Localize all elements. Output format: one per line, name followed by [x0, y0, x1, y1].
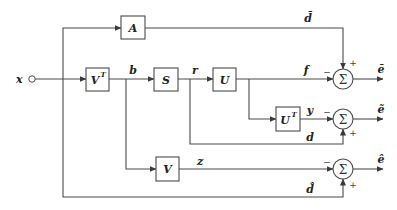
- signal-r: r: [192, 64, 199, 77]
- output-e-bar: ē: [378, 63, 385, 76]
- block-a: A: [121, 16, 145, 39]
- summer-3: Σ − +: [323, 157, 357, 190]
- signal-d-bar: d̄: [304, 11, 313, 25]
- block-v: V: [156, 157, 179, 181]
- block-u-label: U: [220, 74, 231, 87]
- wire-b-to-v: [126, 79, 156, 169]
- summer-2: Σ − +: [323, 107, 357, 138]
- wire-f-to-ut: [249, 79, 276, 119]
- block-s: S: [154, 68, 178, 91]
- signal-b: b: [129, 64, 137, 77]
- block-v-label: V: [163, 163, 173, 176]
- input-label: x: [15, 73, 23, 86]
- minus-sign: −: [323, 67, 331, 77]
- sigma-icon: Σ: [339, 73, 347, 87]
- wire-a-to-sum1: [145, 28, 343, 69]
- block-s-label: S: [162, 74, 170, 87]
- block-u: U: [213, 68, 236, 91]
- block-diagram: x A d̄ V T b S r d U f U: [0, 0, 397, 210]
- plus-sign: +: [349, 128, 357, 138]
- block-ut-sup: T: [291, 110, 297, 119]
- signal-y: y: [306, 104, 315, 117]
- input-node: x: [15, 73, 35, 86]
- summer-1: Σ − +: [323, 58, 357, 89]
- signal-d: d: [306, 131, 314, 144]
- block-ut-label: U: [280, 114, 291, 127]
- block-vt-label: V: [91, 74, 101, 87]
- block-ut: U T: [276, 107, 300, 131]
- block-vt: V T: [86, 68, 109, 91]
- sigma-icon: Σ: [339, 113, 347, 127]
- plus-sign: +: [349, 180, 357, 190]
- minus-sign: −: [323, 107, 331, 117]
- wire-x-to-sum3: [63, 79, 343, 197]
- signal-d-hat: d̂: [306, 182, 315, 196]
- sigma-icon: Σ: [339, 163, 347, 177]
- signal-z: z: [196, 155, 204, 168]
- plus-sign: +: [349, 58, 357, 68]
- minus-sign: −: [323, 157, 331, 167]
- output-e-tilde: ẽ: [378, 103, 385, 116]
- output-e-hat: ê: [378, 153, 385, 166]
- block-a-label: A: [128, 22, 138, 35]
- signal-f: f: [303, 64, 311, 77]
- block-vt-sup: T: [100, 70, 106, 79]
